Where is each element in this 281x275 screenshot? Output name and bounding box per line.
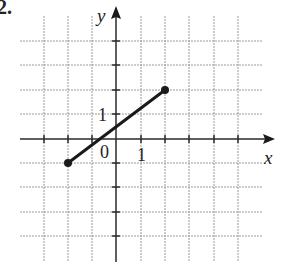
y-tick-label-1: 1 [98, 105, 107, 125]
y-axis-label: y [95, 5, 106, 26]
segment-endpoint-left [64, 159, 72, 167]
origin-label: 0 [100, 142, 109, 162]
coordinate-plane: 2. y x 1 0 1 [0, 0, 281, 275]
x-axis-label: x [263, 147, 273, 168]
axes [20, 16, 266, 262]
x-tick-label-1: 1 [137, 145, 146, 165]
segment-endpoint-right [161, 86, 169, 94]
problem-number: 2. [0, 0, 12, 18]
